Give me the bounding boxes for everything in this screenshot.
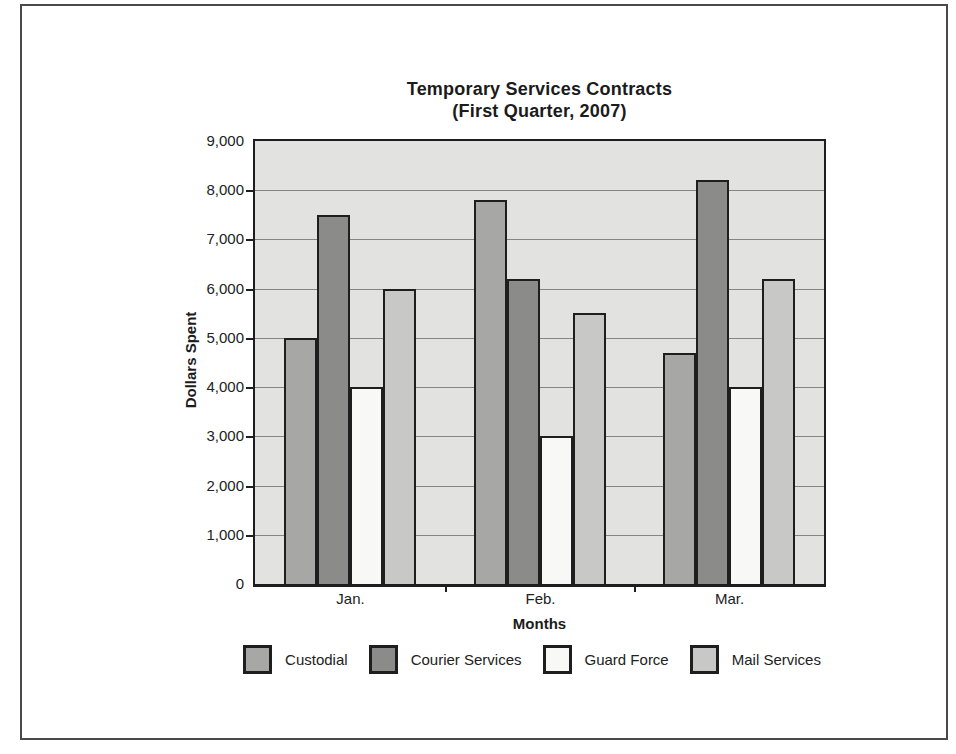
legend-swatch-mail-services [690, 645, 719, 674]
y-tick-label-9000: 9,000 [152, 132, 244, 149]
y-tick-label-1000: 1,000 [152, 526, 244, 543]
bar-guard-force-feb [540, 436, 573, 584]
y-tick-mark-8000 [246, 190, 253, 192]
legend: CustodialCourier ServicesGuard ForceMail… [142, 645, 922, 674]
bar-mail-services-mar [762, 279, 795, 584]
x-tick-label-jan: Jan. [255, 590, 446, 607]
y-tick-label-4000: 4,000 [152, 378, 244, 395]
legend-item-courier-services: Courier Services [369, 645, 522, 674]
bar-custodial-mar [663, 353, 696, 584]
legend-label-courier-services: Courier Services [411, 651, 522, 668]
y-tick-mark-1000 [246, 535, 253, 537]
legend-swatch-custodial [243, 645, 272, 674]
chart-title: Temporary Services Contracts [253, 78, 826, 100]
bar-courier-services-feb [507, 279, 540, 584]
legend-swatch-courier-services [369, 645, 398, 674]
bar-guard-force-mar [729, 387, 762, 584]
y-tick-mark-5000 [246, 338, 253, 340]
legend-label-custodial: Custodial [285, 651, 348, 668]
scanned-page: Temporary Services Contracts (First Quar… [0, 0, 956, 754]
legend-label-mail-services: Mail Services [732, 651, 821, 668]
chart-title-block: Temporary Services Contracts (First Quar… [253, 78, 826, 122]
y-tick-label-0: 0 [152, 575, 244, 592]
x-tick-label-mar: Mar. [634, 590, 825, 607]
legend-item-guard-force: Guard Force [543, 645, 669, 674]
bar-group-feb [445, 141, 635, 584]
x-axis-title: Months [253, 615, 826, 632]
plot-area [253, 139, 826, 587]
y-tick-label-8000: 8,000 [152, 181, 244, 198]
y-tick-mark-6000 [246, 289, 253, 291]
x-tick-label-feb: Feb. [445, 590, 636, 607]
bar-group-jan [255, 141, 445, 584]
bar-mail-services-jan [383, 289, 416, 584]
y-tick-label-6000: 6,000 [152, 280, 244, 297]
bar-courier-services-mar [696, 180, 729, 584]
legend-label-guard-force: Guard Force [585, 651, 669, 668]
bar-mail-services-feb [573, 313, 606, 584]
legend-swatch-guard-force [543, 645, 572, 674]
bar-group-mar [634, 141, 824, 584]
y-tick-mark-7000 [246, 239, 253, 241]
y-tick-label-3000: 3,000 [152, 427, 244, 444]
page-frame: Temporary Services Contracts (First Quar… [20, 4, 948, 740]
bar-guard-force-jan [350, 387, 383, 584]
legend-item-mail-services: Mail Services [690, 645, 821, 674]
bar-courier-services-jan [317, 215, 350, 584]
chart-subtitle: (First Quarter, 2007) [253, 100, 826, 122]
y-tick-mark-4000 [246, 387, 253, 389]
y-tick-label-7000: 7,000 [152, 230, 244, 247]
y-tick-label-2000: 2,000 [152, 477, 244, 494]
bar-custodial-feb [474, 200, 507, 584]
y-tick-label-5000: 5,000 [152, 329, 244, 346]
bar-custodial-jan [284, 338, 317, 584]
legend-item-custodial: Custodial [243, 645, 348, 674]
y-tick-mark-2000 [246, 486, 253, 488]
y-tick-mark-3000 [246, 436, 253, 438]
